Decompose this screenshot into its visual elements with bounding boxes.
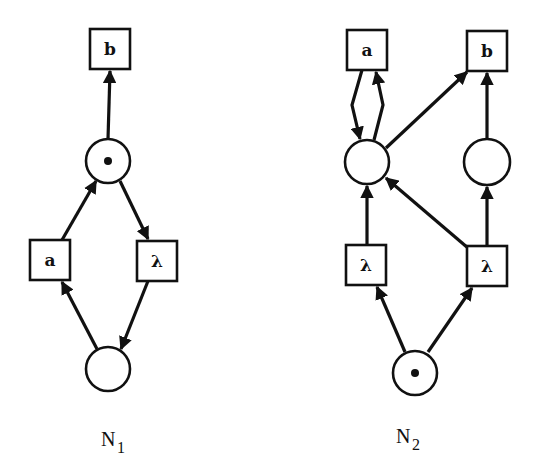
transition-label: λ xyxy=(481,256,493,276)
place-top-marked xyxy=(86,139,130,183)
arc-ptop-to-b xyxy=(108,71,110,139)
arc-lambda-to-pbottom xyxy=(121,281,148,349)
place-left xyxy=(345,140,389,184)
transition-label: λ xyxy=(360,255,372,275)
arc-pbottom-to-a xyxy=(62,282,97,349)
petri-net-diagram: b a λ N 1 xyxy=(0,0,542,476)
transition-label: λ xyxy=(151,251,163,271)
transition-b: b xyxy=(467,31,507,71)
arc-ptop-to-lambda xyxy=(120,181,148,239)
net-label-n1: N xyxy=(101,428,115,450)
net-subscript-n2: 2 xyxy=(412,436,420,453)
place-right xyxy=(464,139,510,185)
token-dot-icon xyxy=(104,157,112,165)
net-label-n2: N xyxy=(396,425,410,447)
transition-b: b xyxy=(90,29,130,69)
transition-lambda-right: λ xyxy=(467,246,507,286)
transition-label: a xyxy=(361,40,372,60)
arc-a-to-pleft xyxy=(352,70,362,139)
transition-label: b xyxy=(104,39,116,59)
net-subscript-n1: 1 xyxy=(117,439,125,456)
arc-pbottom-to-lambdaleft xyxy=(377,287,405,352)
transition-lambda: λ xyxy=(137,241,177,281)
arc-a-to-ptop xyxy=(62,181,96,240)
arc-lambdaright-to-pleft xyxy=(386,178,468,248)
transition-lambda-left: λ xyxy=(346,245,386,285)
place-bottom-marked xyxy=(393,351,437,395)
arc-pleft-to-a xyxy=(374,72,383,140)
transition-a: a xyxy=(30,240,70,280)
token-dot-icon xyxy=(411,369,419,377)
transition-a: a xyxy=(347,30,387,70)
arc-pleft-to-b xyxy=(386,72,467,148)
net-n2: a b λ λ N 2 xyxy=(345,30,510,453)
arc-pbottom-to-lambdaright xyxy=(428,288,472,352)
net-n1: b a λ N 1 xyxy=(30,29,177,456)
place-bottom xyxy=(86,347,130,391)
transition-label: a xyxy=(44,250,55,270)
transition-label: b xyxy=(481,41,493,61)
